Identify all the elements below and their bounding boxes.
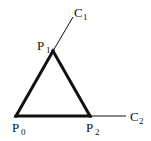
point-p1: [51, 49, 55, 53]
label-p1: P 1: [37, 38, 51, 55]
svg-text:P: P: [37, 38, 44, 53]
svg-text:C: C: [74, 5, 83, 20]
svg-text:2: 2: [95, 127, 100, 137]
label-p2: P 2: [86, 120, 100, 137]
svg-text:C: C: [130, 109, 139, 124]
line-p1-c1: [53, 17, 73, 51]
point-p0: [14, 114, 18, 118]
triangle-diagram: P 1 C 1 P 0 P 2 C 2: [0, 0, 151, 141]
label-p0: P 0: [12, 120, 26, 137]
svg-text:P: P: [86, 120, 93, 135]
label-c2: C 2: [130, 109, 144, 126]
triangle-p0-p1-p2: [16, 51, 90, 116]
svg-text:0: 0: [21, 127, 26, 137]
svg-text:1: 1: [83, 12, 88, 22]
point-p2: [88, 114, 92, 118]
svg-text:P: P: [12, 120, 19, 135]
svg-text:1: 1: [46, 45, 51, 55]
label-c1: C 1: [74, 5, 88, 22]
svg-text:2: 2: [139, 116, 144, 126]
